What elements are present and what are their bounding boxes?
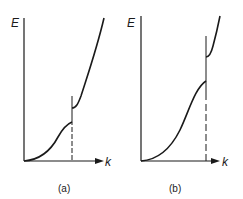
band-diagram: E k (a) E k (b)	[0, 0, 243, 199]
panel-b-caption: (b)	[169, 183, 181, 194]
panel-a-caption: (a)	[58, 183, 70, 194]
panel-a-y-label: E	[11, 16, 20, 30]
panel-a-x-arrow-icon	[95, 158, 104, 164]
panel-a-upper-band	[72, 18, 104, 108]
panel-b-y-label: E	[127, 16, 136, 30]
panel-b-upper-band	[206, 16, 220, 57]
panel-b: E k (b)	[127, 16, 229, 194]
panel-a-lower-band	[24, 122, 72, 161]
panel-b-x-label: k	[222, 155, 229, 169]
panel-a: E k (a)	[11, 16, 112, 194]
panel-a-x-label: k	[105, 155, 112, 169]
panel-b-lower-band	[141, 81, 206, 161]
panel-b-x-arrow-icon	[211, 158, 220, 164]
